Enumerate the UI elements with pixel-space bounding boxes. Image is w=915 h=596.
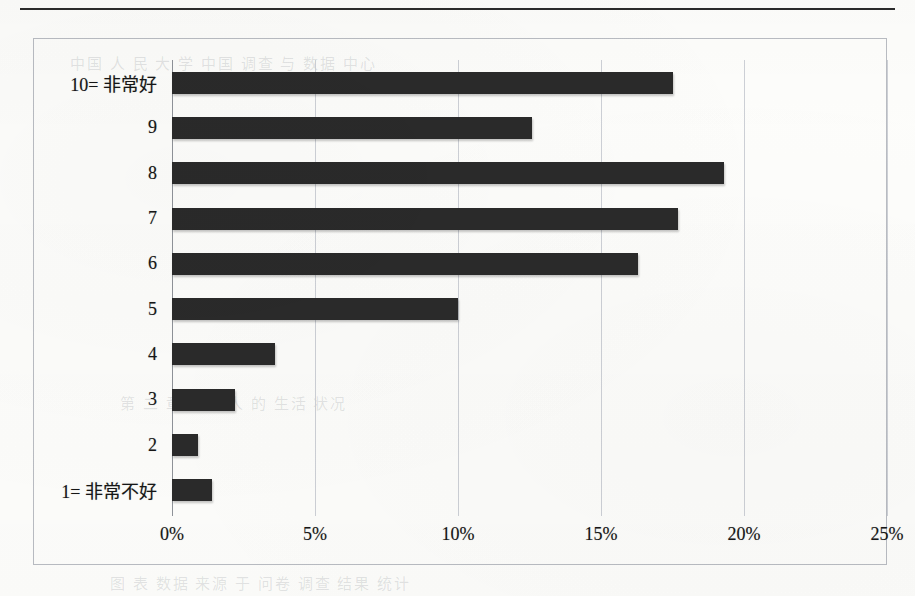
bar-row (172, 377, 887, 422)
bar (172, 434, 198, 456)
bar-chart-plot-area (172, 60, 887, 530)
y-axis-label-0: 10= 非常好 (0, 60, 166, 105)
bar-row (172, 422, 887, 467)
bar (172, 253, 638, 275)
x-axis-tick-labels: 0%5%10%15%20%25% (172, 524, 887, 554)
bleed-through-text-bottom: 图 表 数据 来源 于 问卷 调查 结果 统计 (110, 572, 411, 593)
bar (172, 208, 678, 230)
y-axis-category-labels: 10= 非常好987654321= 非常不好 (0, 60, 166, 516)
x-tick-label-0: 0% (160, 524, 184, 545)
bar-row (172, 105, 887, 150)
gridline (887, 60, 888, 516)
bar-row (172, 332, 887, 377)
x-tick-label-20: 20% (728, 524, 761, 545)
bar (172, 298, 458, 320)
x-tick-label-10: 10% (442, 524, 475, 545)
y-axis-label-1: 9 (0, 105, 166, 150)
y-axis-label-8: 2 (0, 422, 166, 467)
bar (172, 72, 673, 94)
bar (172, 117, 532, 139)
bar-row (172, 196, 887, 241)
x-tick-label-25: 25% (871, 524, 904, 545)
page-header-rule (20, 8, 895, 10)
bar-rows (172, 60, 887, 516)
bar (172, 389, 235, 411)
y-axis-label-5: 5 (0, 286, 166, 331)
y-axis-label-9: 1= 非常不好 (0, 468, 166, 513)
bar-row (172, 151, 887, 196)
y-axis-label-7: 3 (0, 377, 166, 422)
y-axis-label-2: 8 (0, 151, 166, 196)
bar (172, 479, 212, 501)
y-axis-label-6: 4 (0, 332, 166, 377)
bar-row (172, 286, 887, 331)
y-axis-label-3: 7 (0, 196, 166, 241)
y-axis-label-4: 6 (0, 241, 166, 286)
bar-row (172, 60, 887, 105)
scanned-page: 中国 人 民 大 学 中国 调查 与 数据 中心 第 二 章 中国 人 的 生活… (0, 0, 915, 596)
bar-row (172, 241, 887, 286)
x-tick-label-15: 15% (585, 524, 618, 545)
bar (172, 343, 275, 365)
bar-row (172, 468, 887, 513)
bar (172, 162, 724, 184)
x-tick-label-5: 5% (303, 524, 327, 545)
